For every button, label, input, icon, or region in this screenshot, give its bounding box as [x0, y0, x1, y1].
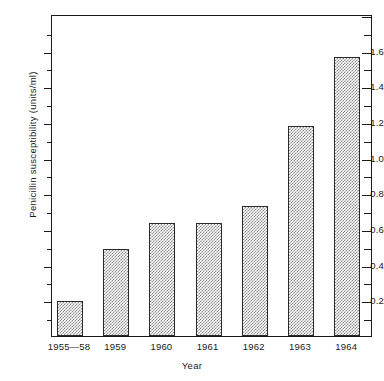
y-tick-major [44, 302, 52, 303]
right-axis-tick [364, 106, 371, 107]
bar [288, 126, 314, 337]
y-tick-label: 0.6 [346, 224, 384, 235]
right-axis-tick [364, 284, 371, 285]
right-axis-tick [364, 249, 371, 250]
bar [242, 206, 268, 336]
y-tick-minor [47, 106, 52, 107]
bar [103, 249, 129, 336]
y-tick-label: 0.8 [346, 188, 384, 199]
right-axis-tick [364, 320, 371, 321]
y-tick-label: 1.2 [346, 117, 384, 128]
y-tick-major [44, 124, 52, 125]
plot-area [51, 15, 372, 337]
y-tick-major [44, 231, 52, 232]
y-tick-label: 0.4 [346, 260, 384, 271]
right-axis-tick [364, 177, 371, 178]
bar-chart: 0.20.40.60.81.01.21.41.6 1955—5819591960… [0, 0, 384, 381]
x-axis-title: Year [0, 360, 384, 371]
y-tick-major [44, 88, 52, 89]
right-axis-tick [364, 213, 371, 214]
bar [196, 223, 222, 336]
y-tick-minor [47, 177, 52, 178]
y-tick-label: 0.2 [346, 295, 384, 306]
y-tick-minor [47, 213, 52, 214]
x-tick-label: 1964 [316, 341, 376, 352]
y-tick-minor [47, 142, 52, 143]
y-tick-major [44, 267, 52, 268]
y-tick-minor [47, 249, 52, 250]
y-tick-minor [47, 35, 52, 36]
y-tick-minor [47, 284, 52, 285]
bar [149, 223, 175, 336]
y-tick-label: 1.6 [346, 46, 384, 57]
y-tick-label: 1.4 [346, 81, 384, 92]
bar [57, 301, 83, 336]
y-tick-major [44, 160, 52, 161]
y-tick-minor [47, 70, 52, 71]
right-axis-tick [364, 142, 371, 143]
y-axis-title: Penicillin susceptibility (units/ml) [27, 0, 38, 295]
y-tick-label: 1.0 [346, 153, 384, 164]
right-axis-tick [364, 70, 371, 71]
y-tick-major [44, 53, 52, 54]
right-axis-tick [364, 35, 371, 36]
y-tick-major [44, 195, 52, 196]
y-tick-minor [47, 320, 52, 321]
right-axis-tick [362, 17, 371, 18]
